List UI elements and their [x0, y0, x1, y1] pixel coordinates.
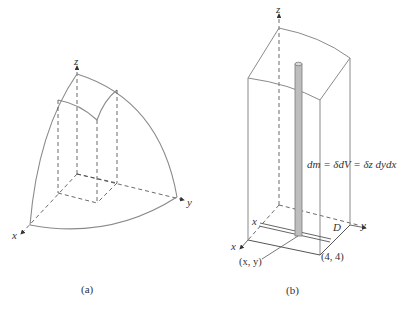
- region-d-label: D: [333, 222, 341, 233]
- y-axis-b-hidden: [279, 205, 358, 225]
- y-axis-label-a: y: [187, 197, 192, 208]
- arc-yz: [77, 74, 177, 197]
- patch-edge-right: [97, 90, 117, 120]
- z-axis-label-b: z: [276, 4, 280, 15]
- strip-x-label: x: [252, 216, 257, 227]
- arc-xz: [30, 74, 77, 225]
- z-axis-label-a: z: [74, 56, 78, 67]
- x-axis-a: [21, 174, 77, 234]
- caption-a: (a): [81, 284, 93, 295]
- y-axis-label-b: y: [361, 220, 366, 231]
- point-leader: [262, 236, 298, 259]
- figure-b-solid-box: [240, 14, 366, 259]
- caption-b: (b): [286, 285, 299, 296]
- patch-edge-front: [58, 100, 97, 120]
- x-axis-label-b: x: [231, 241, 236, 252]
- arc-xy: [30, 197, 177, 229]
- figure-a-sphere-octant: [21, 66, 184, 234]
- mass-element-equation: dm = δdV = δz dydx: [307, 159, 396, 170]
- x-axis-b: [240, 240, 248, 249]
- corner-44-label: (4, 4): [321, 252, 344, 263]
- mass-column: [295, 62, 302, 236]
- point-xy-label: (x, y): [239, 257, 262, 268]
- x-axis-label-a: x: [12, 230, 17, 241]
- diagram-canvas: [0, 0, 406, 309]
